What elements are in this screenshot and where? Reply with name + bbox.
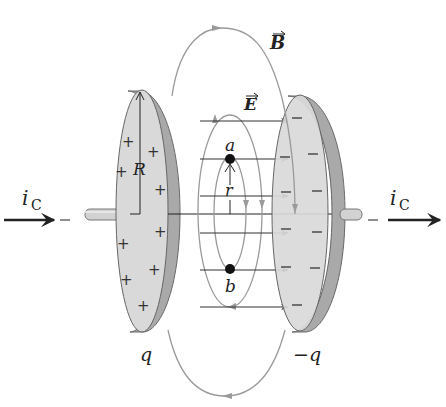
b-field-arrow-top-icon bbox=[212, 25, 222, 31]
svg-text:E: E bbox=[243, 94, 258, 114]
capacitor-diagram: + + + + + + + + + R r bbox=[0, 0, 446, 407]
right-wire bbox=[340, 209, 362, 220]
loop-arrow-icon bbox=[243, 200, 249, 209]
b-field-arrow-bottom-icon bbox=[222, 393, 232, 399]
svg-text:i: i bbox=[22, 186, 28, 210]
svg-text:+: + bbox=[148, 261, 161, 279]
right-plate bbox=[272, 95, 345, 332]
point-b-label: b bbox=[225, 276, 236, 296]
svg-text:+: + bbox=[115, 163, 128, 181]
svg-text:+: + bbox=[154, 181, 167, 199]
svg-text:+: + bbox=[147, 143, 160, 161]
radius-r-marker: r bbox=[225, 164, 235, 214]
svg-text:C: C bbox=[399, 197, 410, 213]
svg-text:C: C bbox=[31, 197, 42, 213]
charge-left-label: q bbox=[140, 343, 152, 365]
magnetic-field-label: B bbox=[269, 31, 285, 53]
svg-text:+: + bbox=[137, 297, 150, 315]
current-in-left: i C bbox=[4, 186, 70, 220]
svg-text:i: i bbox=[390, 186, 396, 210]
plate-radius-label: R bbox=[132, 159, 146, 179]
current-out-right: i C bbox=[368, 186, 440, 220]
svg-text:+: + bbox=[122, 133, 135, 151]
diagram-canvas: + + + + + + + + + R r bbox=[0, 0, 446, 407]
loop-arrow-icon bbox=[259, 200, 265, 209]
svg-text:r: r bbox=[225, 181, 234, 200]
svg-text:+: + bbox=[120, 271, 133, 289]
point-a-label: a bbox=[225, 135, 235, 155]
magnetic-field-loop-outer bbox=[168, 25, 285, 399]
charge-right-label: −q bbox=[293, 343, 321, 365]
svg-text:+: + bbox=[117, 235, 130, 253]
electric-field-label: E bbox=[243, 93, 258, 114]
point-b bbox=[225, 264, 235, 274]
point-a bbox=[225, 154, 235, 164]
svg-text:+: + bbox=[154, 223, 167, 241]
loop-arrow-icon bbox=[212, 114, 218, 123]
left-plate: + + + + + + + + + R bbox=[115, 90, 180, 332]
